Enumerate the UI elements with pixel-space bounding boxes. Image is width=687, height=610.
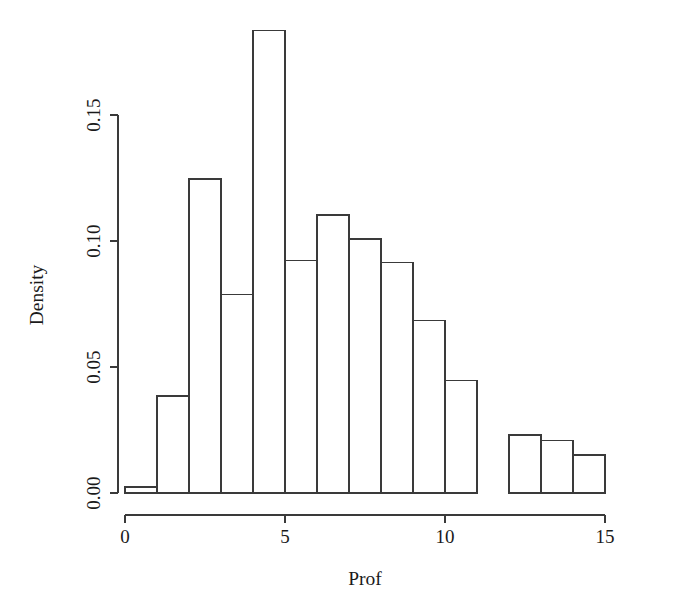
histogram-bar [573,455,605,493]
x-axis-tick-label: 10 [436,526,455,547]
histogram-plot: 051015 0.000.050.100.15 Prof Density [0,0,687,610]
histogram-bar [221,295,253,493]
histogram-bar [253,30,285,493]
histogram-bar [349,239,381,493]
y-axis-title: Density [26,264,47,325]
x-axis-ticks: 051015 [120,515,614,547]
x-axis-title: Prof [348,568,382,589]
histogram-bar [509,435,541,493]
y-axis-tick-label: 0.00 [83,476,104,509]
y-axis-tick-label: 0.10 [83,224,104,257]
y-axis-tick-label: 0.15 [83,98,104,131]
histogram-bars [125,30,605,493]
y-axis: 0.000.050.100.15 [83,98,118,509]
x-axis-tick-label: 5 [280,526,290,547]
histogram-figure: 051015 0.000.050.100.15 Prof Density [0,0,687,610]
x-axis-tick-label: 0 [120,526,130,547]
x-axis-tick-label: 15 [596,526,615,547]
histogram-bar [189,179,221,493]
histogram-bar [285,261,317,493]
histogram-bar [157,396,189,493]
y-axis-ticks: 0.000.050.100.15 [83,98,118,509]
histogram-bar [445,380,477,493]
histogram-bar [125,487,157,493]
histogram-bar [413,321,445,493]
y-axis-tick-label: 0.05 [83,350,104,383]
histogram-bar [541,440,573,493]
histogram-bar [317,215,349,493]
histogram-bar [381,263,413,493]
x-axis: 051015 [120,515,614,547]
